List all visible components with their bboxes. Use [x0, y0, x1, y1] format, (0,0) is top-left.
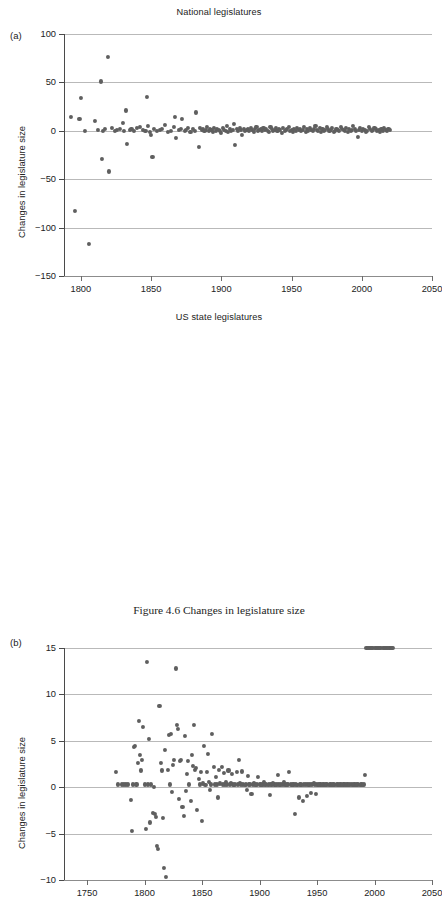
panel-a-national-legislatures: National legislatures (a) Changes in leg…: [0, 0, 438, 305]
data-point: [305, 794, 309, 798]
data-point: [157, 703, 161, 707]
data-point: [190, 753, 194, 757]
panel-a-letter: (a): [10, 30, 22, 41]
data-point: [179, 758, 183, 762]
x-tick-1850: [202, 880, 203, 885]
data-point: [146, 124, 150, 128]
data-point: [100, 157, 104, 161]
panel-b-title: US state legislatures: [0, 312, 438, 322]
data-point: [237, 758, 241, 762]
data-point: [185, 772, 189, 776]
data-point: [197, 145, 201, 149]
data-point: [363, 773, 367, 777]
data-point: [206, 752, 210, 756]
data-point: [174, 666, 178, 670]
data-point: [362, 782, 366, 786]
data-point: [73, 209, 77, 213]
panel-b-y-axis-label: Changes in legislature size: [16, 737, 27, 849]
data-point: [124, 108, 128, 112]
x-tick-2000: [375, 880, 376, 885]
data-point: [240, 769, 244, 773]
data-point: [77, 117, 81, 121]
data-point: [159, 761, 163, 765]
data-point: [105, 55, 109, 59]
data-point: [314, 792, 318, 796]
x-tick-1850: [151, 276, 152, 281]
y-tick-label-15: 15: [46, 643, 56, 653]
data-point: [126, 782, 130, 786]
x-tick-label-1900: 1900: [249, 888, 270, 898]
data-point: [192, 723, 196, 727]
data-point: [107, 169, 111, 173]
data-point: [140, 758, 144, 762]
data-point: [69, 115, 73, 119]
data-point: [297, 795, 301, 799]
y-axis-line: [64, 648, 65, 880]
data-point: [154, 815, 158, 819]
x-tick-label-1900: 1900: [211, 284, 232, 294]
data-point: [183, 734, 187, 738]
y-tick-label-0: 0: [51, 782, 56, 792]
y-tick-label--50: −50: [40, 174, 56, 184]
data-point: [150, 155, 154, 159]
data-point: [230, 772, 234, 776]
x-tick-label-1800: 1800: [134, 888, 155, 898]
data-point: [172, 758, 176, 762]
x-tick-label-2050: 2050: [422, 888, 442, 898]
x-tick-1900: [260, 880, 261, 885]
data-point: [141, 725, 145, 729]
x-tick-1800: [81, 276, 82, 281]
data-point: [180, 805, 184, 809]
data-point: [268, 793, 272, 797]
x-tick-1900: [221, 276, 222, 281]
data-point: [249, 792, 253, 796]
panel-b-us-state-legislatures: US state legislatures (b) Changes in leg…: [0, 305, 438, 595]
data-point: [199, 770, 203, 774]
data-point: [301, 799, 305, 803]
data-point: [161, 816, 165, 820]
data-point: [174, 136, 178, 140]
x-tick-label-1950: 1950: [307, 888, 328, 898]
data-point: [276, 773, 280, 777]
panel-b-letter: (b): [10, 637, 22, 648]
data-point: [184, 789, 188, 793]
gridline-y--50: [64, 179, 432, 180]
data-point: [208, 788, 212, 792]
data-point: [172, 125, 176, 129]
data-point: [197, 777, 201, 781]
x-tick-1950: [317, 880, 318, 885]
data-point: [216, 795, 220, 799]
data-point: [293, 812, 297, 816]
data-point: [93, 119, 97, 123]
data-point: [145, 660, 149, 664]
data-point: [163, 123, 167, 127]
data-point: [194, 766, 198, 770]
data-point: [169, 732, 173, 736]
y-tick-label-5: 5: [51, 736, 56, 746]
x-axis-line: [64, 276, 432, 277]
data-point: [125, 142, 129, 146]
data-point: [156, 847, 160, 851]
x-tick-label-1800: 1800: [71, 284, 92, 294]
x-tick-label-1850: 1850: [192, 888, 213, 898]
x-tick-label-2000: 2000: [351, 284, 372, 294]
data-point: [137, 719, 141, 723]
figure-caption: Figure 4.6 Changes in legislature size: [0, 604, 438, 616]
gridline-y-50: [64, 82, 432, 83]
x-tick-2000: [362, 276, 363, 281]
gridline-y-100: [64, 34, 432, 35]
data-point: [195, 808, 199, 812]
data-point: [234, 770, 238, 774]
data-point: [139, 768, 143, 772]
data-point: [193, 129, 197, 133]
panel-a-plot-area: 100500−50−100−15018001850190019502000205…: [64, 34, 432, 276]
y-tick-label--10: −10: [40, 875, 56, 885]
data-point: [144, 827, 148, 831]
data-point: [256, 775, 260, 779]
data-point: [233, 143, 237, 147]
data-point: [173, 115, 177, 119]
data-point: [356, 135, 360, 139]
x-tick-1950: [292, 276, 293, 281]
data-point: [220, 765, 224, 769]
data-point: [180, 117, 184, 121]
